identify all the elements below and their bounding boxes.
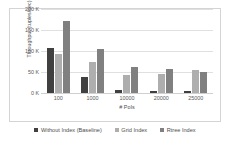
bar <box>200 72 207 93</box>
bar <box>166 69 173 93</box>
plot-area <box>41 9 213 93</box>
x-axis-tick-label: 100 <box>42 95 75 101</box>
legend-item[interactable]: Rtree Index <box>160 127 195 133</box>
bar <box>55 54 62 93</box>
y-axis-tick-labels: 0 K50 K100 K150 K200 K <box>0 9 39 93</box>
x-axis-tick-label: 25000 <box>179 95 212 101</box>
y-axis-tick-label: 50 K <box>1 69 39 75</box>
y-axis-tick-label: 150 K <box>1 27 39 33</box>
bar-group <box>76 9 109 93</box>
bar-group <box>179 9 212 93</box>
legend-swatch-icon <box>115 128 119 132</box>
x-axis-tick-label: 20000 <box>145 95 178 101</box>
legend-swatch-icon <box>34 128 38 132</box>
chart-legend: Without Index (Baseline)Grid IndexRtree … <box>9 127 221 133</box>
y-axis-tick-label: 100 K <box>1 48 39 54</box>
bar <box>123 75 130 93</box>
bar <box>158 74 165 93</box>
bar-group <box>111 9 144 93</box>
bar <box>89 62 96 94</box>
legend-item[interactable]: Without Index (Baseline) <box>34 127 101 133</box>
bar <box>131 67 138 93</box>
bar <box>150 91 157 93</box>
bar-group <box>42 9 75 93</box>
bar-group <box>145 9 178 93</box>
legend-swatch-icon <box>160 128 164 132</box>
bar <box>192 70 199 93</box>
gridline <box>41 93 213 94</box>
bar-groups <box>41 9 213 93</box>
legend-item[interactable]: Grid Index <box>115 127 147 133</box>
legend-label: Rtree Index <box>167 127 196 133</box>
legend-label: Grid Index <box>121 127 147 133</box>
bar <box>47 48 54 93</box>
bar <box>97 49 104 93</box>
bar <box>81 77 88 93</box>
x-axis-tick-label: 1000 <box>76 95 109 101</box>
bar <box>115 90 122 93</box>
legend-label: Without Index (Baseline) <box>41 127 102 133</box>
bar <box>63 21 70 93</box>
x-axis-tick-labels: 1001000100002000025000 <box>41 95 213 101</box>
y-axis-tick-label: 0 K <box>1 90 39 96</box>
bar-chart: Throughput (tuples/sec) 0 K50 K100 K150 … <box>0 0 231 160</box>
x-axis-title: # PoIs <box>41 104 213 110</box>
x-axis-tick-label: 10000 <box>111 95 144 101</box>
bar <box>184 91 191 93</box>
y-axis-tick-label: 200 K <box>1 6 39 12</box>
